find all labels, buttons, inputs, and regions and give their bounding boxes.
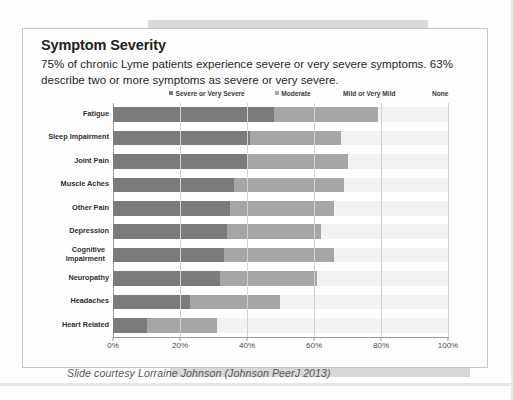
bar-segment-moderate — [227, 224, 321, 239]
bar-segment-moderate — [147, 318, 217, 333]
bar-segment-severe — [113, 248, 224, 263]
category-label-muscle-aches: Muscle Aches — [23, 180, 109, 189]
x-axis-tick-labels: 0%20%40%60%80%100% — [113, 341, 449, 353]
bar-segment-mild — [341, 131, 448, 146]
bar-segment-severe — [113, 271, 220, 286]
x-tick-label-20%: 20% — [172, 341, 188, 350]
bar-segment-moderate — [247, 154, 348, 169]
bar-segment-severe — [113, 178, 234, 193]
x-tick-mark — [314, 337, 315, 341]
bar-segment-moderate — [230, 201, 334, 216]
category-label-depression: Depression — [23, 227, 109, 236]
bar-rows — [113, 103, 448, 337]
scan-artifact-band-lower-page — [0, 383, 513, 386]
bar-segment-moderate — [190, 295, 280, 310]
gridline-80% — [381, 103, 382, 337]
x-axis-line — [113, 337, 449, 338]
x-tick-mark — [247, 337, 248, 341]
bar-segment-mild — [280, 295, 448, 310]
bar-segment-moderate — [274, 107, 378, 122]
bar-row[interactable] — [113, 154, 448, 169]
bar-segment-severe — [113, 295, 190, 310]
symptom-severity-chart: FatigueSleep ImpairmentJoint PainMuscle … — [23, 29, 487, 367]
bar-segment-moderate — [224, 248, 335, 263]
x-tick-label-60%: 60% — [306, 341, 322, 350]
bar-segment-severe — [113, 107, 274, 122]
bar-row[interactable] — [113, 201, 448, 216]
x-tick-mark — [113, 337, 114, 341]
x-tick-label-80%: 80% — [373, 341, 389, 350]
bar-row[interactable] — [113, 107, 448, 122]
category-label-fatigue: Fatigue — [23, 110, 109, 119]
x-tick-mark — [180, 337, 181, 341]
bar-segment-severe — [113, 318, 147, 333]
bar-segment-mild — [334, 201, 448, 216]
bar-row[interactable] — [113, 131, 448, 146]
category-label-heart-related: Heart Related — [23, 321, 109, 330]
bar-segment-severe — [113, 201, 230, 216]
category-label-headaches: Headaches — [23, 297, 109, 306]
bar-row[interactable] — [113, 271, 448, 286]
gridline-60% — [314, 103, 315, 337]
x-tick-mark — [448, 337, 449, 341]
bar-segment-mild — [348, 154, 449, 169]
bar-segment-moderate — [234, 178, 345, 193]
bar-segment-mild — [344, 178, 448, 193]
bar-segment-mild — [217, 318, 448, 333]
category-label-cognitive-impairment: Cognitive Impairment — [55, 246, 105, 263]
x-tick-label-40%: 40% — [239, 341, 255, 350]
bar-row[interactable] — [113, 224, 448, 239]
bar-segment-mild — [321, 224, 448, 239]
category-label-sleep-impairment: Sleep Impairment — [23, 133, 109, 142]
bar-segment-moderate — [220, 271, 317, 286]
bar-segment-moderate — [250, 131, 340, 146]
plot-area — [113, 103, 448, 337]
bar-row[interactable] — [113, 295, 448, 310]
bar-segment-severe — [113, 224, 227, 239]
bar-row[interactable] — [113, 248, 448, 263]
bar-segment-mild — [317, 271, 448, 286]
gridline-100% — [448, 103, 449, 337]
slide-courtesy-note: Slide courtesy Lorraine Johnson (Johnson… — [67, 367, 331, 379]
bar-segment-mild — [334, 248, 448, 263]
category-label-other-pain: Other Pain — [23, 204, 109, 213]
gridline-20% — [180, 103, 181, 337]
slide-card: Symptom Severity 75% of chronic Lyme pat… — [22, 28, 488, 368]
bar-row[interactable] — [113, 318, 448, 333]
x-tick-label-100%: 100% — [438, 341, 458, 350]
category-label-joint-pain: Joint Pain — [23, 157, 109, 166]
bar-segment-severe — [113, 131, 250, 146]
x-tick-label-0%: 0% — [107, 341, 119, 350]
gridline-40% — [247, 103, 248, 337]
bar-row[interactable] — [113, 178, 448, 193]
bar-segment-mild — [378, 107, 448, 122]
category-label-neuropathy: Neuropathy — [23, 274, 109, 283]
x-tick-mark — [381, 337, 382, 341]
category-axis-labels: FatigueSleep ImpairmentJoint PainMuscle … — [23, 103, 109, 337]
